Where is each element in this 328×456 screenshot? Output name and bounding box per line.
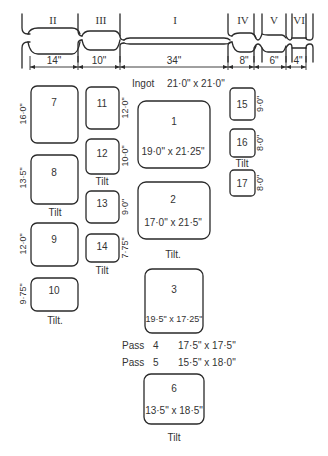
- pass-17-dim: 8·0": [255, 175, 265, 191]
- pass-15: 15 9·0": [230, 88, 265, 120]
- pass-1: 1 19·0" x 21·25": [138, 101, 210, 168]
- pass-1-size: 19·0" x 21·25": [141, 146, 205, 157]
- pass-4: Pass 4 17·5" x 17·5": [122, 340, 236, 351]
- pass-16-tilt: Tilt: [236, 158, 249, 169]
- groove-width-i: 34": [167, 55, 182, 66]
- pass-15-number: 15: [236, 99, 248, 110]
- pass-16-number: 16: [236, 137, 248, 148]
- pass-12-dim: 10·0": [120, 145, 130, 166]
- groove-label-i: I: [173, 14, 177, 26]
- pass-3-number: 3: [171, 284, 177, 295]
- pass-6-number: 6: [171, 383, 177, 394]
- pass-2-number: 2: [170, 194, 176, 205]
- pass-12-number: 12: [96, 148, 108, 159]
- pass-14-dim: 7·75": [120, 237, 130, 258]
- pass-8: 8 13·5" Tilt: [18, 155, 78, 218]
- roll-profile: II III I IV V VI 14" 10" 34" 8" 6": [22, 14, 313, 70]
- pass-8-dim: 13·5": [18, 167, 28, 188]
- pass-14: 14 7·75" Tilt: [86, 234, 130, 276]
- pass-13-number: 13: [96, 198, 108, 209]
- groove-label-vi: VI: [293, 14, 305, 26]
- groove-label-v: V: [270, 14, 278, 26]
- groove-width-iii: 10": [92, 55, 107, 66]
- pass-8-number: 8: [51, 167, 57, 178]
- groove-width-vi: 4": [293, 55, 303, 66]
- pass-10-number: 10: [48, 285, 60, 296]
- pass-13: 13 9·0": [86, 191, 130, 223]
- pass-7-dim: 16·0": [18, 103, 28, 124]
- groove-label-iv: IV: [237, 14, 249, 26]
- pass-10: 10 9·75" Tilt.: [18, 278, 78, 326]
- pass-12: 12 10·0" Tilt: [86, 139, 130, 187]
- pass-17-number: 17: [236, 178, 248, 189]
- pass-5-size: 15·5" x 18·0": [178, 357, 236, 368]
- pass-8-tilt: Tilt: [49, 207, 62, 218]
- pass-5-number: 5: [153, 357, 159, 368]
- pass-9-number: 9: [51, 234, 57, 245]
- groove-width-iv: 8": [239, 55, 249, 66]
- pass-5-label: Pass: [122, 357, 144, 368]
- groove-label-iii: III: [96, 14, 107, 26]
- ingot-label: Ingot: [132, 78, 154, 89]
- pass-4-number: 4: [153, 340, 159, 351]
- groove-width-ii: 14": [47, 55, 62, 66]
- pass-16-dim: 8·0": [255, 135, 265, 151]
- pass-12-tilt: Tilt: [96, 176, 109, 187]
- pass-1-number: 1: [171, 116, 177, 127]
- pass-15-dim: 9·0": [255, 96, 265, 112]
- rolling-schedule-diagram: II III I IV V VI 14" 10" 34" 8" 6": [0, 0, 328, 456]
- pass-11-dim: 12·0": [120, 97, 130, 118]
- pass-10-dim: 9·75": [18, 283, 28, 304]
- pass-10-tilt: Tilt.: [47, 315, 63, 326]
- pass-2: 2 17·0" x 21·5" Tilt.: [138, 182, 210, 260]
- ingot-size: 21·0" x 21·0": [167, 78, 225, 89]
- pass-3: 3 19·5" x 17·25": [145, 269, 203, 333]
- pass-6: 6 13·5" x 18·5" Tilt: [144, 374, 204, 443]
- groove-width-v: 6": [269, 55, 279, 66]
- pass-14-tilt: Tilt: [96, 265, 109, 276]
- pass-11: 11 12·0": [86, 87, 130, 129]
- pass-16: 16 8·0" Tilt: [230, 129, 265, 169]
- pass-11-number: 11: [97, 98, 108, 109]
- pass-4-size: 17·5" x 17·5": [178, 340, 236, 351]
- pass-2-tilt: Tilt.: [165, 249, 181, 260]
- pass-5: Pass 5 15·5" x 18·0": [122, 357, 236, 368]
- pass-2-size: 17·0" x 21·5": [144, 217, 202, 228]
- pass-7-number: 7: [51, 97, 57, 108]
- pass-9: 9 12·0": [18, 223, 78, 266]
- pass-7: 7 16·0": [18, 86, 78, 143]
- pass-13-dim: 9·0": [120, 199, 130, 215]
- pass-3-size: 19·5" x 17·25": [146, 314, 203, 324]
- pass-4-label: Pass: [122, 340, 144, 351]
- pass-6-tilt: Tilt: [168, 432, 181, 443]
- pass-14-number: 14: [96, 241, 108, 252]
- pass-6-size: 13·5" x 18·5": [145, 405, 203, 416]
- pass-9-dim: 12·0": [18, 233, 28, 254]
- groove-label-ii: II: [49, 14, 57, 26]
- pass-17: 17 8·0": [230, 170, 265, 196]
